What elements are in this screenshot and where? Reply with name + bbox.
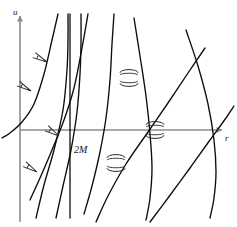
cone-arc-inner: [120, 73, 138, 75]
spacetime-diagram: u r 2M: [0, 0, 237, 227]
y-axis-label: u: [13, 8, 18, 17]
cone-arc: [27, 165, 29, 169]
cone-arc: [36, 55, 38, 59]
x-axis-label: r: [225, 134, 229, 143]
light-cone-4: [120, 70, 138, 87]
ingoing-null-geodesics: [2, 14, 216, 220]
cone-wedge: [23, 162, 39, 175]
diagram-canvas: [0, 0, 237, 227]
cone-arc: [107, 155, 125, 158]
cone-wedge: [33, 53, 49, 65]
horizon-label-2m: 2M: [74, 145, 87, 155]
cone-arc: [21, 84, 23, 87]
ingoing-null-geodesics-2: [84, 14, 114, 214]
cone-arc-inner: [107, 158, 125, 160]
ingoing-null-geodesics-0: [2, 14, 58, 138]
light-cone-0: [33, 53, 49, 65]
cone-arc-inner: [146, 133, 164, 135]
cone-arc-inner: [120, 81, 138, 83]
outgoing-null-geodesics: [36, 14, 234, 222]
cone-arc: [146, 135, 164, 138]
cone-arc-inner: [107, 166, 125, 168]
light-cone-3: [23, 162, 39, 175]
ingoing-null-geodesics-1: [30, 14, 88, 200]
ingoing-null-geodesics-4: [186, 30, 216, 218]
ingoing-null-geodesics-3: [134, 18, 152, 220]
cone-arc: [120, 83, 138, 86]
cone-arc: [120, 70, 138, 73]
